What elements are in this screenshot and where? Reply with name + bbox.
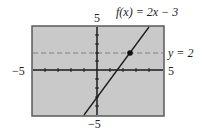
reference-line-label: y = 2 [168,47,193,59]
x-max-label: 5 [168,65,174,77]
x-min-label: −5 [12,65,25,77]
y-min-label: −5 [88,118,101,130]
function-label: f(x) = 2x − 3 [116,6,178,18]
y-max-label: 5 [94,12,100,24]
plot-area [32,26,164,116]
intersection-point [127,50,133,56]
